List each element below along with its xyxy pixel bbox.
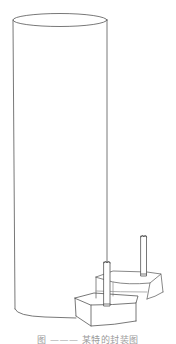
cylinder-bottom-arc <box>15 309 76 318</box>
package-diagram <box>0 0 176 344</box>
cylinder-top-ellipse <box>13 14 107 27</box>
cylinder-left-edge <box>13 20 15 309</box>
back-pin-body <box>141 236 147 276</box>
front-pin-body <box>104 262 110 306</box>
cylinder-body <box>13 14 107 319</box>
front-pin <box>104 262 110 307</box>
back-pin <box>141 236 147 277</box>
figure-caption: 图 ——— 某特的封装图 <box>0 333 176 344</box>
